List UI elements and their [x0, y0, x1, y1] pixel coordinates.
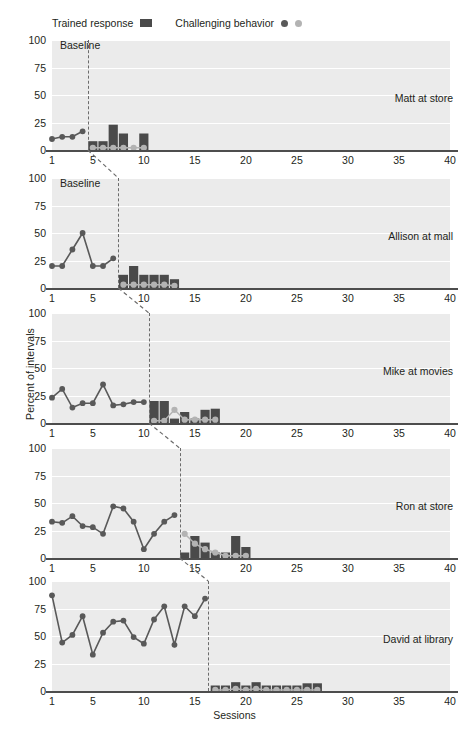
phase-change-line: [208, 581, 209, 691]
x-tick-label: 20: [240, 562, 252, 574]
y-axis-ticks: 1007550250: [14, 178, 46, 288]
intervention-challenging-point: [212, 549, 218, 555]
panel-label-4: Ron at store: [396, 500, 453, 512]
x-tick-label: 30: [342, 562, 354, 574]
intervention-challenging-point: [161, 282, 167, 288]
x-tick-label: 10: [138, 427, 150, 439]
intervention-challenging-point: [202, 546, 208, 552]
x-tick-label: 10: [138, 292, 150, 304]
chart-panel-5: 10075502501510152025303540David at libra…: [0, 581, 469, 721]
x-tick-label: 5: [90, 292, 96, 304]
y-tick-label: 75: [16, 471, 46, 481]
y-tick-label: 0: [16, 283, 46, 293]
baseline-data-point: [161, 519, 167, 525]
y-tick-label: 0: [16, 418, 46, 428]
y-tick-label: 50: [16, 228, 46, 238]
x-tick-label: 10: [138, 562, 150, 574]
intervention-challenging-point: [131, 282, 137, 288]
chart-panel-2: 10075502501510152025303540Allison at mal…: [0, 178, 469, 318]
y-tick-label: 25: [16, 391, 46, 401]
baseline-data-point: [141, 399, 147, 405]
baseline-data-point: [100, 263, 106, 269]
filled-circle-dark-icon: [281, 20, 288, 27]
baseline-annotation: Baseline: [60, 177, 100, 189]
baseline-data-point: [141, 641, 147, 647]
baseline-data-point: [110, 255, 116, 261]
intervention-challenging-point: [182, 417, 188, 423]
x-tick-label: 20: [240, 292, 252, 304]
baseline-data-point: [151, 531, 157, 537]
intervention-challenging-point: [212, 417, 218, 423]
x-tick-label: 35: [393, 427, 405, 439]
intervention-challenging-point: [171, 407, 177, 413]
plot-area: [52, 40, 450, 150]
x-tick-label: 15: [189, 695, 201, 707]
x-tick-label: 5: [90, 562, 96, 574]
x-tick-label: 40: [444, 292, 456, 304]
y-axis-ticks: 1007550250: [14, 313, 46, 423]
y-tick-label: 50: [16, 363, 46, 373]
intervention-challenging-point: [182, 531, 188, 537]
baseline-data-point: [172, 512, 178, 518]
x-tick-label: 30: [342, 427, 354, 439]
baseline-data-point: [59, 134, 65, 140]
baseline-data-point: [90, 263, 96, 269]
x-tick-label: 15: [189, 154, 201, 166]
baseline-data-point: [49, 263, 55, 269]
y-tick-label: 50: [16, 90, 46, 100]
x-axis-ticks: 1510152025303540: [52, 290, 450, 308]
x-tick-label: 30: [342, 154, 354, 166]
y-tick-label: 100: [16, 443, 46, 453]
baseline-data-point: [59, 386, 65, 392]
x-tick-label: 25: [291, 154, 303, 166]
y-tick-label: 25: [16, 256, 46, 266]
y-tick-label: 100: [16, 173, 46, 183]
data-layer: [52, 448, 450, 558]
baseline-data-point: [80, 400, 86, 406]
legend-label-challenging-behavior: Challenging behavior: [175, 17, 274, 29]
x-tick-label: 35: [393, 695, 405, 707]
phase-change-line: [180, 448, 181, 558]
baseline-series-line: [52, 506, 174, 549]
chart-legend: Trained response Challenging behavior: [52, 14, 302, 32]
y-tick-label: 0: [16, 145, 46, 155]
phase-change-line: [118, 178, 119, 288]
x-tick-label: 1: [49, 562, 55, 574]
legend-label-trained-response: Trained response: [52, 17, 133, 29]
x-tick-label: 35: [393, 154, 405, 166]
intervention-challenging-point: [151, 282, 157, 288]
baseline-data-point: [151, 617, 157, 623]
x-axis-ticks: 1510152025303540: [52, 560, 450, 578]
intervention-challenging-point: [192, 417, 198, 423]
x-tick-label: 20: [240, 427, 252, 439]
baseline-data-point: [100, 382, 106, 388]
x-tick-label: 40: [444, 154, 456, 166]
x-tick-label: 15: [189, 292, 201, 304]
panel-label-5: David at library: [383, 633, 453, 645]
baseline-data-point: [80, 128, 86, 134]
x-tick-label: 35: [393, 292, 405, 304]
baseline-data-point: [80, 613, 86, 619]
x-tick-label: 10: [138, 154, 150, 166]
x-tick-label: 40: [444, 562, 456, 574]
y-tick-label: 25: [16, 659, 46, 669]
filled-circle-light-icon: [295, 20, 302, 27]
baseline-data-point: [90, 652, 96, 658]
baseline-data-point: [80, 523, 86, 529]
baseline-data-point: [90, 524, 96, 530]
phase-change-line: [88, 40, 89, 150]
x-tick-label: 20: [240, 154, 252, 166]
plot-area: [52, 448, 450, 558]
y-axis-ticks: 1007550250: [14, 40, 46, 150]
baseline-data-point: [131, 634, 137, 640]
chart-panel-3: 10075502501510152025303540Mike at movies: [0, 313, 469, 453]
y-tick-label: 100: [16, 576, 46, 586]
baseline-data-point: [90, 400, 96, 406]
y-tick-label: 25: [16, 118, 46, 128]
x-tick-label: 30: [342, 695, 354, 707]
baseline-data-point: [70, 632, 76, 638]
x-tick-label: 5: [90, 695, 96, 707]
baseline-data-point: [59, 263, 65, 269]
x-tick-label: 40: [444, 427, 456, 439]
y-axis-ticks: 1007550250: [14, 581, 46, 691]
